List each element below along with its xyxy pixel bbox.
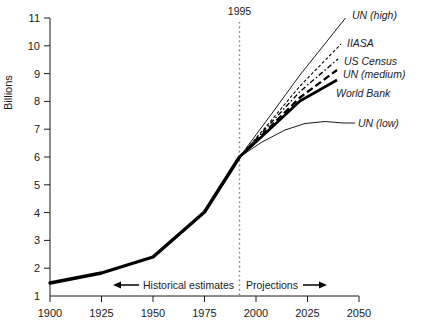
left-arrow-head-icon bbox=[113, 282, 121, 289]
y-tick-label: 1 bbox=[34, 290, 40, 302]
annotation-historical-estimates: Historical estimates bbox=[113, 279, 234, 291]
x-tick-label: 1975 bbox=[192, 307, 216, 319]
y-axis-ticks: 11 10 9 8 7 6 5 4 3 2 1 bbox=[28, 12, 50, 302]
series-label-us-census: US Census bbox=[344, 55, 398, 67]
x-tick-label: 1925 bbox=[89, 307, 113, 319]
x-axis-ticks: 1900 1925 1950 1975 2000 2025 2050 bbox=[38, 296, 371, 319]
x-tick-label: 2025 bbox=[295, 307, 319, 319]
annotation-projections: Projections bbox=[246, 279, 327, 291]
y-tick-label: 9 bbox=[34, 68, 40, 80]
series-label-un-high: UN (high) bbox=[352, 9, 397, 21]
y-tick-label: 2 bbox=[34, 262, 40, 274]
y-tick-label: 10 bbox=[28, 40, 40, 52]
annotation-label-historical: Historical estimates bbox=[143, 279, 234, 291]
y-tick-label: 7 bbox=[34, 123, 40, 135]
y-tick-label: 3 bbox=[34, 234, 40, 246]
y-tick-label: 6 bbox=[34, 151, 40, 163]
y-tick-label: 8 bbox=[34, 95, 40, 107]
annotation-label-projections: Projections bbox=[246, 279, 298, 291]
y-tick-label: 11 bbox=[29, 12, 40, 24]
divider-label: 1995 bbox=[228, 5, 252, 17]
population-projection-chart: Billions 11 10 9 8 7 6 5 4 3 bbox=[0, 0, 434, 330]
y-tick-label: 4 bbox=[34, 207, 40, 219]
series-label-un-medium: UN (medium) bbox=[343, 68, 405, 80]
x-tick-label: 2050 bbox=[347, 307, 371, 319]
series-label-world-bank: World Bank bbox=[336, 87, 391, 99]
chart-canvas: 11 10 9 8 7 6 5 4 3 2 1 1900 1925 bbox=[0, 0, 434, 330]
series-line-un-high bbox=[240, 18, 346, 157]
x-tick-label: 2000 bbox=[244, 307, 268, 319]
y-tick-label: 5 bbox=[34, 179, 40, 191]
series-line-historical bbox=[50, 157, 240, 283]
x-tick-label: 1900 bbox=[38, 307, 62, 319]
series-label-un-low: UN (low) bbox=[358, 117, 399, 129]
series-label-iiasa: IIASA bbox=[347, 37, 374, 49]
right-arrow-head-icon bbox=[319, 282, 327, 289]
x-tick-label: 1950 bbox=[141, 307, 165, 319]
series-line-iiasa bbox=[240, 44, 342, 157]
